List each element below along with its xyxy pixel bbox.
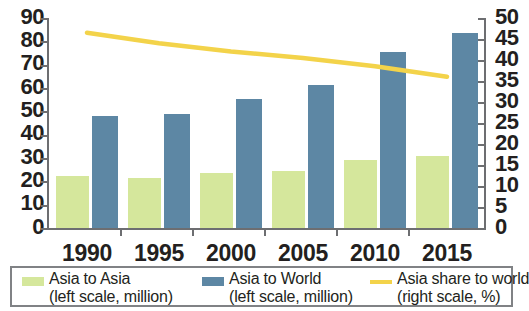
bar-asia-to-world [308,85,334,229]
category-tick [408,230,410,236]
bar-asia-to-world [92,116,118,228]
category-tick [264,230,266,236]
bar-asia-to-asia [344,160,377,228]
bar-asia-to-world [236,99,262,229]
legend-item-scale: (right scale, %) [397,288,529,306]
legend-item-label: Asia to World [229,270,353,288]
category-tick [120,230,122,236]
x-axis-tick-label: 2005 [278,240,328,267]
bar-asia-to-world [380,52,406,228]
green-swatch-icon [22,277,44,286]
legend-item-scale: (left scale, million) [49,288,173,306]
legend-item-text: Asia share to world (right scale, %) [397,270,529,306]
legend-item-text: Asia to World (left scale, million) [229,270,353,306]
bar-asia-to-asia [128,178,161,228]
x-axis-tick-label: 1990 [62,240,112,267]
x-axis-labels: 1990 1995 2000 2005 2010 2015 [0,240,525,268]
legend-item-asia-share-to-world: Asia share to world (right scale, %) [370,270,529,306]
line-swatch-icon [370,280,392,284]
legend-item-asia-to-asia: Asia to Asia (left scale, million) [22,270,173,306]
category-tick [192,230,194,236]
bar-asia-to-asia [200,173,233,228]
bar-asia-to-asia [416,156,449,228]
baseline-axis [47,228,486,230]
legend-item-asia-to-world: Asia to World (left scale, million) [202,270,353,306]
blue-swatch-icon [202,277,224,286]
legend-item-text: Asia to Asia (left scale, million) [49,270,173,306]
bars-layer [0,0,525,228]
legend-item-label: Asia to Asia [49,270,173,288]
x-axis-tick-label: 2000 [206,240,256,267]
chart-legend: Asia to Asia (left scale, million) Asia … [10,266,513,307]
legend-item-scale: (left scale, million) [229,288,353,306]
x-axis-tick-label: 1995 [134,240,184,267]
bar-asia-to-world [164,114,190,228]
category-tick [336,230,338,236]
bar-asia-to-asia [56,176,89,229]
x-axis-tick-label: 2015 [422,240,472,267]
x-axis-tick-label: 2010 [350,240,400,267]
bar-asia-to-asia [272,171,305,228]
legend-item-label: Asia share to world [397,270,529,288]
bar-asia-to-world [452,33,478,228]
plot-area: 90 80 70 60 50 40 30 20 10 0 50 45 40 35… [0,0,525,240]
